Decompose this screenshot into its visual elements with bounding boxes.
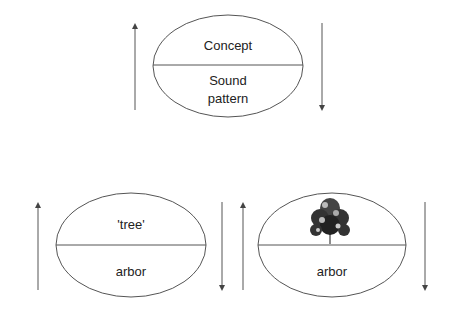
- bottom-left-sign: [56, 193, 206, 297]
- signifier-arbor: arbor: [71, 263, 191, 280]
- signifier-arbor-right: arbor: [272, 263, 392, 280]
- signified-tree: 'tree': [71, 216, 191, 233]
- signified-concept: Concept: [168, 37, 288, 54]
- tree-icon: [310, 198, 350, 244]
- signifier-sound: Sound: [168, 72, 288, 89]
- signifier-pattern: pattern: [168, 90, 288, 107]
